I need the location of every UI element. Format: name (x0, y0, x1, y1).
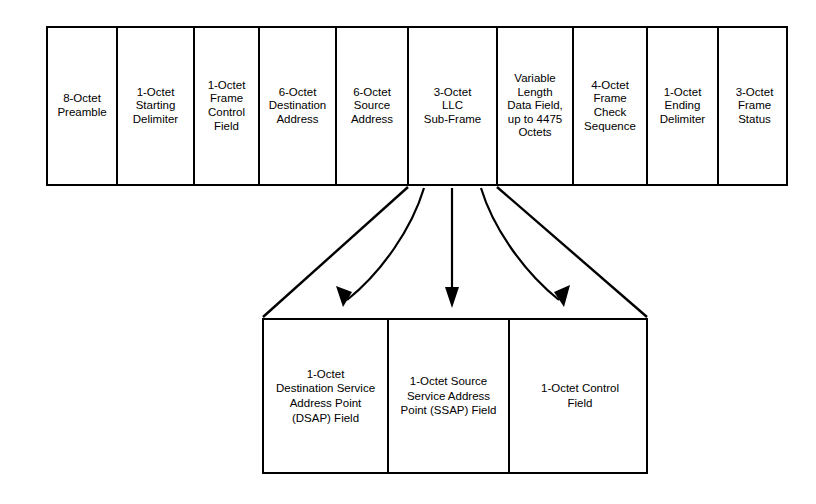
arrowhead-middle (445, 287, 459, 308)
mac-field-label: 6-Octet Destination Address (269, 86, 327, 127)
mac-field-3: 6-Octet Destination Address (260, 28, 337, 184)
llc-field-1: 1-Octet Source Service Address Point (SS… (389, 320, 510, 472)
mac-field-label: 3-Octet LLC Sub-Frame (424, 86, 482, 127)
mac-field-label: 1-Octet Ending Delimiter (660, 86, 705, 127)
mac-field-label: Variable Length Data Field, up to 4475 O… (507, 72, 563, 140)
mac-field-5: 3-Octet LLC Sub-Frame (409, 28, 498, 184)
funnel-line-left (263, 187, 408, 317)
llc-field-label: 1-Octet Source Service Address Point (SS… (401, 374, 497, 418)
llc-field-0: 1-Octet Destination Service Address Poin… (264, 320, 389, 472)
mac-field-label: 6-Octet Source Address (351, 86, 393, 127)
expansion-arrow-left (347, 188, 424, 300)
mac-field-2: 1-Octet Frame Control Field (195, 28, 260, 184)
llc-field-label: 1-Octet Destination Service Address Poin… (276, 367, 375, 425)
mac-field-1: 1-Octet Starting Delimiter (118, 28, 195, 184)
mac-field-label: 8-Octet Preamble (57, 92, 106, 119)
mac-field-label: 1-Octet Frame Control Field (208, 79, 246, 133)
mac-frame: 8-Octet Preamble1-Octet Starting Delimit… (46, 26, 788, 186)
llc-sub-frame: 1-Octet Destination Service Address Poin… (262, 318, 648, 474)
mac-field-8: 1-Octet Ending Delimiter (648, 28, 719, 184)
mac-field-label: 1-Octet Starting Delimiter (133, 86, 178, 127)
llc-field-2: 1-Octet Control Field (510, 320, 650, 472)
llc-field-label: 1-Octet Control Field (541, 381, 619, 410)
diagram-canvas: 8-Octet Preamble1-Octet Starting Delimit… (0, 0, 816, 504)
mac-field-0: 8-Octet Preamble (48, 28, 118, 184)
expansion-arrow-right (481, 188, 559, 300)
mac-field-7: 4-Octet Frame Check Sequence (574, 28, 648, 184)
funnel-line-right (497, 187, 647, 317)
mac-field-label: 3-Octet Frame Status (736, 86, 774, 127)
mac-field-6: Variable Length Data Field, up to 4475 O… (498, 28, 574, 184)
mac-field-4: 6-Octet Source Address (337, 28, 409, 184)
mac-field-9: 3-Octet Frame Status (719, 28, 790, 184)
arrowhead-right (554, 285, 570, 307)
mac-field-label: 4-Octet Frame Check Sequence (584, 79, 636, 133)
